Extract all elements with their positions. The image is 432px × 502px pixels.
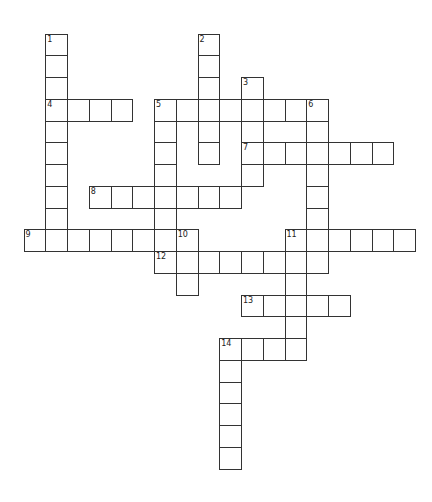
crossword-cell[interactable] bbox=[45, 186, 68, 209]
crossword-cell[interactable]: 2 bbox=[198, 34, 221, 57]
crossword-cell[interactable] bbox=[176, 186, 199, 209]
crossword-cell[interactable] bbox=[219, 403, 242, 426]
crossword-cell[interactable] bbox=[219, 186, 242, 209]
crossword-cell[interactable] bbox=[45, 77, 68, 100]
crossword-cell[interactable]: 4 bbox=[45, 99, 68, 122]
crossword-cell[interactable] bbox=[285, 251, 308, 274]
crossword-cell[interactable] bbox=[176, 273, 199, 296]
crossword-cell[interactable] bbox=[306, 295, 329, 318]
crossword-cell[interactable] bbox=[306, 164, 329, 187]
clue-number: 8 bbox=[91, 187, 96, 196]
crossword-cell[interactable]: 10 bbox=[176, 229, 199, 252]
crossword-cell[interactable] bbox=[176, 251, 199, 274]
crossword-cell[interactable] bbox=[285, 295, 308, 318]
crossword-cell[interactable] bbox=[328, 142, 351, 165]
crossword-cell[interactable] bbox=[285, 142, 308, 165]
crossword-cell[interactable] bbox=[393, 229, 416, 252]
crossword-cell[interactable] bbox=[285, 99, 308, 122]
crossword-cell[interactable] bbox=[219, 360, 242, 383]
crossword-cell[interactable]: 9 bbox=[24, 229, 47, 252]
crossword-cell[interactable]: 6 bbox=[306, 99, 329, 122]
crossword-cell[interactable] bbox=[219, 382, 242, 405]
crossword-cell[interactable] bbox=[372, 142, 395, 165]
crossword-cell[interactable]: 14 bbox=[219, 338, 242, 361]
crossword-cell[interactable] bbox=[241, 121, 264, 144]
clue-number: 4 bbox=[47, 100, 52, 109]
crossword-cell[interactable] bbox=[219, 251, 242, 274]
clue-number: 1 bbox=[47, 35, 52, 44]
crossword-cell[interactable] bbox=[154, 208, 177, 231]
crossword-grid: 1423756128910111314 bbox=[0, 0, 432, 502]
crossword-cell[interactable] bbox=[241, 164, 264, 187]
crossword-cell[interactable] bbox=[45, 121, 68, 144]
crossword-cell[interactable] bbox=[241, 99, 264, 122]
crossword-cell[interactable] bbox=[198, 77, 221, 100]
crossword-cell[interactable] bbox=[154, 164, 177, 187]
crossword-cell[interactable]: 11 bbox=[285, 229, 308, 252]
crossword-cell[interactable]: 13 bbox=[241, 295, 264, 318]
crossword-cell[interactable] bbox=[372, 229, 395, 252]
crossword-cell[interactable] bbox=[328, 295, 351, 318]
crossword-cell[interactable] bbox=[198, 142, 221, 165]
crossword-cell[interactable] bbox=[176, 99, 199, 122]
crossword-cell[interactable] bbox=[306, 121, 329, 144]
crossword-cell[interactable] bbox=[198, 99, 221, 122]
crossword-cell[interactable] bbox=[198, 121, 221, 144]
crossword-cell[interactable] bbox=[328, 229, 351, 252]
crossword-cell[interactable] bbox=[306, 251, 329, 274]
crossword-cell[interactable] bbox=[132, 186, 155, 209]
crossword-cell[interactable] bbox=[45, 142, 68, 165]
crossword-cell[interactable] bbox=[198, 186, 221, 209]
crossword-cell[interactable] bbox=[241, 338, 264, 361]
crossword-cell[interactable] bbox=[285, 338, 308, 361]
crossword-cell[interactable] bbox=[350, 142, 373, 165]
crossword-cell[interactable] bbox=[219, 447, 242, 470]
crossword-cell[interactable] bbox=[219, 425, 242, 448]
crossword-cell[interactable] bbox=[111, 99, 134, 122]
crossword-cell[interactable] bbox=[154, 186, 177, 209]
crossword-cell[interactable] bbox=[132, 229, 155, 252]
crossword-cell[interactable] bbox=[306, 186, 329, 209]
crossword-cell[interactable] bbox=[45, 229, 68, 252]
crossword-cell[interactable] bbox=[306, 208, 329, 231]
crossword-cell[interactable] bbox=[198, 251, 221, 274]
crossword-cell[interactable]: 1 bbox=[45, 34, 68, 57]
crossword-cell[interactable] bbox=[285, 273, 308, 296]
clue-number: 12 bbox=[156, 252, 166, 261]
crossword-cell[interactable] bbox=[111, 186, 134, 209]
crossword-cell[interactable] bbox=[285, 316, 308, 339]
crossword-cell[interactable] bbox=[154, 229, 177, 252]
crossword-cell[interactable] bbox=[45, 55, 68, 78]
crossword-cell[interactable] bbox=[154, 121, 177, 144]
crossword-cell[interactable] bbox=[111, 229, 134, 252]
crossword-cell[interactable]: 3 bbox=[241, 77, 264, 100]
crossword-cell[interactable] bbox=[89, 229, 112, 252]
clue-number: 14 bbox=[221, 339, 231, 348]
crossword-cell[interactable] bbox=[198, 55, 221, 78]
crossword-cell[interactable] bbox=[219, 99, 242, 122]
crossword-cell[interactable]: 8 bbox=[89, 186, 112, 209]
crossword-cell[interactable] bbox=[306, 229, 329, 252]
crossword-cell[interactable] bbox=[306, 142, 329, 165]
crossword-cell[interactable] bbox=[89, 99, 112, 122]
crossword-cell[interactable] bbox=[45, 164, 68, 187]
clue-number: 2 bbox=[200, 35, 205, 44]
crossword-cell[interactable] bbox=[67, 99, 90, 122]
crossword-cell[interactable] bbox=[263, 338, 286, 361]
crossword-cell[interactable] bbox=[263, 295, 286, 318]
crossword-cell[interactable] bbox=[350, 229, 373, 252]
crossword-cell[interactable] bbox=[241, 251, 264, 274]
crossword-cell[interactable] bbox=[67, 229, 90, 252]
clue-number: 9 bbox=[26, 230, 31, 239]
crossword-cell[interactable] bbox=[263, 99, 286, 122]
clue-number: 3 bbox=[243, 78, 248, 87]
crossword-cell[interactable] bbox=[45, 208, 68, 231]
crossword-cell[interactable]: 12 bbox=[154, 251, 177, 274]
crossword-cell[interactable]: 7 bbox=[241, 142, 264, 165]
crossword-cell[interactable] bbox=[263, 142, 286, 165]
crossword-cell[interactable]: 5 bbox=[154, 99, 177, 122]
clue-number: 13 bbox=[243, 296, 253, 305]
crossword-cell[interactable] bbox=[263, 251, 286, 274]
crossword-cell[interactable] bbox=[154, 142, 177, 165]
clue-number: 11 bbox=[287, 230, 297, 239]
